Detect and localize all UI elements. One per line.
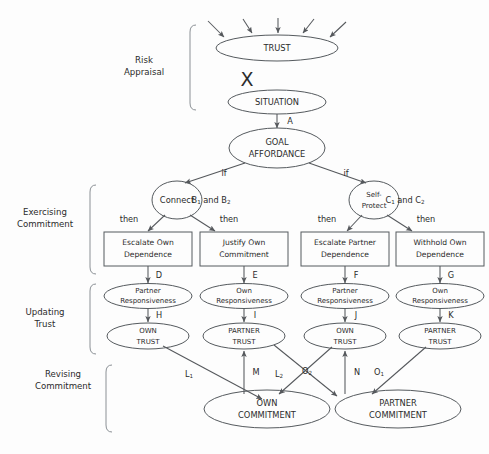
edge-own-responsiveness-2-to-partner-trust-2: K (440, 309, 454, 323)
node-partner-trust-2[interactable]: PARTNER TRUST (399, 323, 481, 349)
edge-partner-responsiveness-1-to-own-trust-1: H (148, 309, 162, 323)
edge-label-o2: O2 (302, 366, 312, 376)
section-label-updating-trust: Updating Trust (25, 307, 64, 329)
node-self-protect-line2: Protect (362, 202, 387, 210)
svg-text:C1 and C2: C1 and C2 (385, 195, 424, 205)
x-operator: X (240, 68, 253, 90)
node-escalate-own-dependence[interactable]: Escalate Own Dependence (104, 232, 192, 266)
node-own-commitment-line2: COMMITMENT (238, 410, 297, 420)
edge-label-l2: L2 (275, 369, 283, 379)
edge-self-protect-to-withhold-own-dependence: then (387, 214, 435, 232)
node-withhold-own-dependence[interactable]: Withhold Own Dependence (396, 232, 484, 266)
edge-own-commitment-to-partner-trust-1: M (244, 351, 260, 394)
section-label-exercising-commitment: Exercising Commitment (17, 207, 74, 229)
node-trust[interactable]: TRUST (216, 35, 338, 61)
node-goal-affordance[interactable]: GOAL AFFORDANCE (229, 128, 325, 168)
node-partner-trust-1[interactable]: PARTNER TRUST (203, 323, 285, 349)
section-label-exercising-commitment-line1: Exercising (23, 207, 67, 217)
node-partner-responsiveness-1[interactable]: Partner Responsiveness (104, 284, 192, 309)
node-partner-trust-2-line2: TRUST (428, 338, 453, 346)
section-label-risk-appraisal: Risk Appraisal (124, 55, 164, 77)
edge-label-o1: O1 (374, 367, 384, 377)
condition-b-sub2: 2 (227, 199, 231, 205)
section-label-revising-commitment-line1: Revising (45, 369, 81, 379)
node-escalate-own-dependence-line1: Escalate Own (122, 238, 174, 247)
edge-partner-trust-1-to-partner-commitment: O2 (274, 345, 337, 396)
edge-self-protect-to-escalate-partner-dependence: then (318, 214, 362, 232)
node-partner-trust-1-line1: PARTNER (228, 327, 260, 335)
edge-withhold-own-dependence-to-own-responsiveness: G (440, 266, 454, 283)
section-label-updating-trust-line1: Updating (25, 307, 64, 317)
edge-goal-affordance-to-connect: if (185, 163, 245, 183)
edge-label-then-4: then (417, 214, 436, 224)
node-own-trust-1[interactable]: OWN TRUST (107, 323, 189, 349)
node-partner-responsiveness-1-line1: Partner (135, 287, 161, 295)
edge-connect-to-escalate-own-dependence: then (120, 214, 165, 232)
node-goal-affordance-line1: GOAL (265, 137, 288, 147)
node-justify-own-commitment[interactable]: Justify Own Commitment (200, 232, 288, 266)
node-own-trust-2[interactable]: OWN TRUST (304, 323, 386, 349)
edge-partner-commitment-to-own-trust-2: N (345, 351, 360, 394)
node-own-responsiveness-2-line2: Responsiveness (412, 297, 468, 305)
svg-text:B1 and B2: B1 and B2 (192, 195, 231, 205)
section-label-risk-appraisal-line2: Appraisal (124, 67, 164, 77)
node-own-commitment-line1: OWN (257, 398, 278, 408)
edge-label-if-right: if (343, 168, 349, 178)
node-escalate-partner-dependence[interactable]: Escalate Partner Dependence (301, 232, 389, 266)
edge-label-a: A (287, 116, 293, 126)
diagram-canvas: Risk Appraisal Exercising Commitment Upd… (0, 0, 489, 454)
section-bracket-risk-appraisal (190, 25, 196, 110)
node-own-responsiveness-2-line1: Own (432, 287, 448, 295)
edge-label-then-1: then (120, 214, 139, 224)
edge-justify-own-commitment-to-own-responsiveness: E (244, 266, 258, 283)
node-goal-affordance-line2: AFFORDANCE (249, 149, 306, 159)
edge-label-l1-sub: 1 (190, 373, 194, 379)
section-label-exercising-commitment-line2: Commitment (17, 219, 74, 229)
node-own-responsiveness-1[interactable]: Own Responsiveness (200, 284, 288, 309)
node-connect-label: Connect (160, 195, 195, 205)
node-partner-responsiveness-2[interactable]: Partner Responsiveness (301, 284, 389, 309)
section-label-revising-commitment: Revising Commitment (35, 369, 92, 391)
edge-label-then-3: then (318, 214, 337, 224)
condition-c-sub2: 2 (421, 199, 425, 205)
node-own-responsiveness-2[interactable]: Own Responsiveness (396, 284, 484, 309)
edge-label-then-2: then (220, 214, 239, 224)
node-own-trust-2-line2: TRUST (333, 338, 358, 346)
node-own-responsiveness-1-line2: Responsiveness (216, 297, 272, 305)
edge-label-d: D (156, 270, 162, 280)
edge-label-k: K (448, 310, 454, 320)
condition-b-rest: and B (201, 195, 228, 205)
node-self-protect-line1: Self- (366, 191, 382, 199)
node-justify-own-commitment-line2: Commitment (219, 250, 269, 259)
edge-label-f: F (354, 270, 359, 280)
section-label-updating-trust-line2: Trust (34, 319, 56, 329)
node-withhold-own-dependence-line2: Dependence (416, 250, 464, 259)
node-partner-commitment[interactable]: PARTNER COMMITMENT (335, 390, 461, 428)
node-situation[interactable]: SITUATION (228, 90, 326, 114)
edge-label-g: G (448, 270, 454, 280)
section-bracket-updating-trust (90, 284, 96, 354)
node-own-responsiveness-1-line1: Own (236, 287, 252, 295)
edge-partner-trust-2-to-partner-commitment: O1 (372, 347, 426, 394)
condition-c-rest: and C (395, 195, 422, 205)
section-bracket-revising-commitment (106, 365, 112, 432)
edge-goal-affordance-to-self-protect: if (309, 163, 366, 183)
edge-label-n: N (354, 367, 360, 377)
node-justify-own-commitment-line1: Justify Own (222, 238, 266, 247)
edge-label-o2-sub: 2 (308, 370, 312, 376)
edge-label-i: I (254, 310, 256, 320)
node-partner-responsiveness-1-line2: Responsiveness (120, 297, 176, 305)
trust-input-arrows (208, 18, 346, 37)
node-own-trust-1-line2: TRUST (136, 338, 161, 346)
edge-label-m: M (252, 367, 259, 377)
node-partner-commitment-line2: COMMITMENT (369, 410, 428, 420)
trust-commitment-flow-diagram: Risk Appraisal Exercising Commitment Upd… (0, 0, 489, 454)
edge-partner-responsiveness-2-to-own-trust-2: J (345, 309, 357, 323)
node-partner-trust-1-line2: TRUST (232, 338, 257, 346)
node-escalate-partner-dependence-line2: Dependence (321, 250, 369, 259)
node-escalate-own-dependence-line2: Dependence (124, 250, 172, 259)
edge-label-h: H (156, 310, 162, 320)
node-escalate-partner-dependence-line1: Escalate Partner (314, 238, 377, 247)
section-label-risk-appraisal-line1: Risk (135, 55, 153, 65)
node-own-commitment[interactable]: OWN COMMITMENT (204, 390, 330, 428)
